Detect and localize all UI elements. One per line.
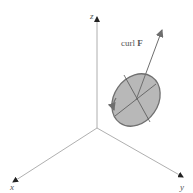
z-axis-label: z bbox=[89, 11, 94, 21]
y-axis-label: y bbox=[179, 182, 184, 192]
y-axis bbox=[97, 128, 183, 177]
curl-vector-label: curl F bbox=[121, 38, 143, 48]
x-axis bbox=[13, 128, 97, 182]
diagram-canvas: z x y curl F bbox=[0, 0, 193, 193]
x-axis-label: x bbox=[9, 182, 14, 192]
